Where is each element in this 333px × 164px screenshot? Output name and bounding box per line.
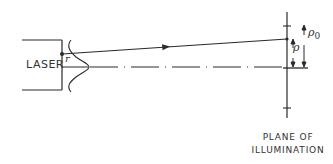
offset-r-label: r xyxy=(65,53,70,64)
plane-of-illumination-label: PLANE OF ILLUMINATION xyxy=(250,131,326,157)
beam-line xyxy=(62,39,287,54)
beam-hit-dot xyxy=(285,37,288,40)
rho0-dimension-arrow xyxy=(302,25,306,67)
plane-label-line1: PLANE OF xyxy=(250,131,326,144)
laser-label: LASER xyxy=(26,58,64,71)
rho-label: ρ xyxy=(293,41,299,54)
plane-label-line2: ILLUMINATION xyxy=(250,144,326,157)
rho0-label: ρ0 xyxy=(308,26,320,41)
rho0-subscript: 0 xyxy=(314,31,320,41)
gaussian-profile-curve xyxy=(69,40,89,92)
